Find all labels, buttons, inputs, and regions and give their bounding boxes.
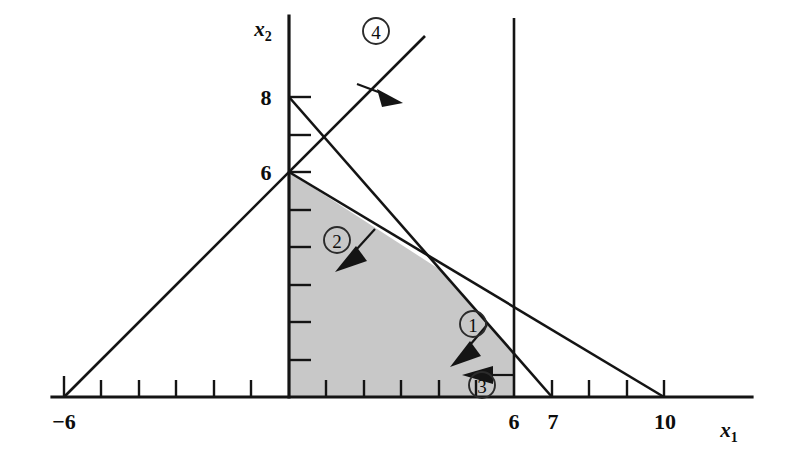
x-tick-label-6: 6	[509, 409, 520, 434]
plot-canvas: 4 2 1 3 −6 6 7 10 8 6 x1 x2	[0, 0, 790, 453]
x-axis-label: x1	[719, 418, 738, 445]
x-axis-label-sub: 1	[731, 430, 738, 445]
x-tick-label-7: 7	[548, 409, 559, 434]
linear-programming-figure: 4 2 1 3 −6 6 7 10 8 6 x1 x2	[0, 0, 790, 453]
y-tick-label-8: 8	[261, 85, 272, 110]
y-tick-label-6: 6	[261, 160, 272, 185]
y-axis-label: x2	[253, 17, 272, 44]
constraint-badge-4: 4	[363, 18, 389, 44]
x-tick-label-10: 10	[654, 409, 676, 434]
badge-label-3: 3	[477, 376, 487, 397]
feasible-region-shading	[289, 172, 514, 397]
badge-label-1: 1	[468, 315, 478, 336]
x-axis-label-main: x	[719, 418, 731, 442]
y-axis-label-sub: 2	[265, 29, 272, 44]
badge-label-2: 2	[332, 231, 342, 252]
y-axis-label-main: x	[253, 17, 265, 41]
x-tick-label--6: −6	[52, 409, 76, 434]
badge-label-4: 4	[371, 22, 381, 43]
